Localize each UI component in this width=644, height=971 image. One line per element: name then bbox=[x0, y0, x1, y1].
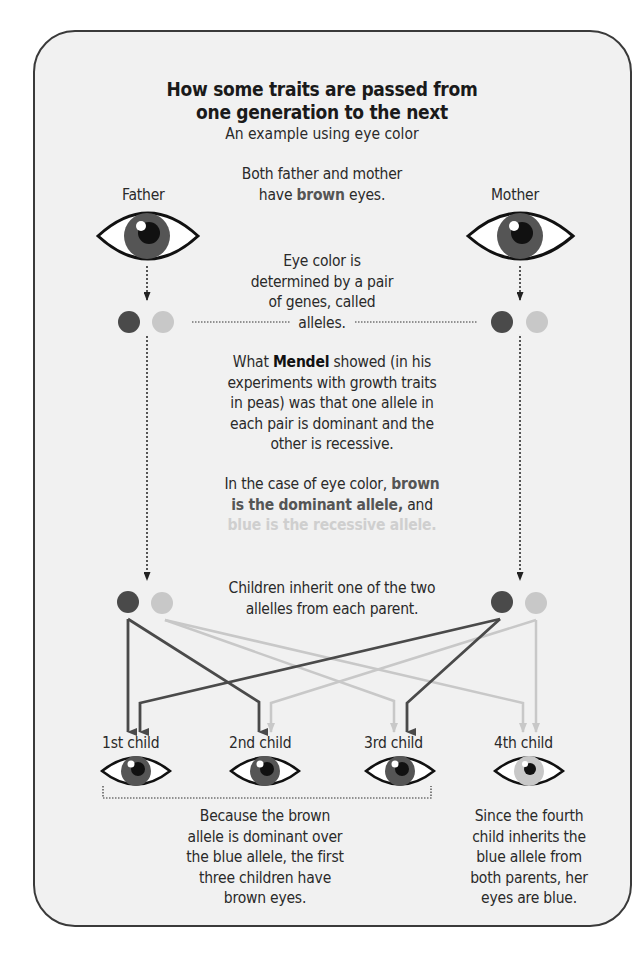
alleles-line-2: determined by a pair bbox=[222, 272, 422, 293]
conclusion-blue-3: blue allele from bbox=[444, 847, 614, 868]
conclusion-brown-1: Because the brown bbox=[155, 806, 375, 827]
intro-brown: brown bbox=[297, 186, 345, 204]
father-blue-allele-icon bbox=[152, 311, 174, 333]
conclusion-blue-1: Since the fourth bbox=[444, 806, 614, 827]
conclusion-blue: Since the fourth child inherits the blue… bbox=[444, 806, 614, 909]
mendel-line-2: experiments with growth traits bbox=[192, 373, 472, 394]
mother-brown-allele-icon bbox=[491, 311, 513, 333]
mendel-pre: What bbox=[233, 353, 273, 371]
child-1-label: 1st child bbox=[102, 734, 159, 752]
conclusion-brown-5: brown eyes. bbox=[155, 888, 375, 909]
father-blue-allele-2-icon bbox=[151, 592, 173, 614]
child-4-label: 4th child bbox=[494, 734, 553, 752]
child-2-label: 2nd child bbox=[229, 734, 291, 752]
dominant-allele-lines bbox=[128, 619, 500, 732]
child-3-label: 3rd child bbox=[364, 734, 423, 752]
conclusion-brown-4: three children have bbox=[155, 868, 375, 889]
conclusion-blue-2: child inherits the bbox=[444, 827, 614, 848]
dominance-line-1: In the case of eye color, brown bbox=[192, 474, 472, 495]
mother-blue-allele-2-icon bbox=[525, 592, 547, 614]
intro-line-2: have brown eyes. bbox=[172, 185, 472, 206]
mother-eye-icon bbox=[468, 213, 573, 259]
title-line-2: one generation to the next bbox=[0, 101, 644, 124]
dominance-dominant: is the dominant allele, bbox=[231, 496, 403, 514]
intro-post: eyes. bbox=[345, 186, 385, 204]
dominance-brown: brown bbox=[391, 475, 439, 493]
child-2-eye-icon bbox=[231, 756, 299, 786]
conclusion-brown: Because the brown allele is dominant ove… bbox=[155, 806, 375, 909]
subtitle: An example using eye color bbox=[0, 125, 644, 143]
mendel-note: What Mendel showed (in his experiments w… bbox=[192, 352, 472, 455]
conclusion-brown-3: the blue allele, the first bbox=[155, 847, 375, 868]
alleles-note: Eye color is determined by a pair of gen… bbox=[222, 251, 422, 333]
inherit-note: Children inherit one of the two allelles… bbox=[192, 578, 472, 619]
mother-brown-allele-2-icon bbox=[491, 591, 513, 613]
father-brown-allele-icon bbox=[118, 311, 140, 333]
conclusion-blue-5: eyes are blue. bbox=[444, 888, 614, 909]
dominance-recessive: blue is the recessive allele. bbox=[192, 515, 472, 536]
conclusion-brown-2: allele is dominant over bbox=[155, 827, 375, 848]
mendel-line-3: in peas) was that one allele in bbox=[192, 393, 472, 414]
father-eye-icon bbox=[98, 213, 198, 259]
mendel-post: showed (in his bbox=[329, 353, 431, 371]
mendel-line-1: What Mendel showed (in his bbox=[192, 352, 472, 373]
father-brown-allele-2-icon bbox=[117, 591, 139, 613]
mendel-line-5: other is recessive. bbox=[192, 434, 472, 455]
conclusion-blue-4: both parents, her bbox=[444, 868, 614, 889]
mother-blue-allele-icon bbox=[526, 311, 548, 333]
inherit-line-2: allelles from each parent. bbox=[192, 599, 472, 620]
title-line-1: How some traits are passed from bbox=[0, 78, 644, 101]
father-label: Father bbox=[122, 186, 165, 204]
mother-label: Mother bbox=[491, 186, 539, 204]
mendel-line-4: each pair is dominant and the bbox=[192, 414, 472, 435]
inherit-line-1: Children inherit one of the two bbox=[192, 578, 472, 599]
mendel-name: Mendel bbox=[273, 353, 329, 371]
intro-pre: have bbox=[259, 186, 297, 204]
child-3-eye-icon bbox=[366, 756, 434, 786]
child-1-eye-icon bbox=[102, 756, 170, 786]
intro-text: Both father and mother have brown eyes. bbox=[172, 164, 472, 205]
alleles-line-4: alleles. bbox=[222, 313, 422, 334]
child-4-eye-icon bbox=[495, 756, 563, 786]
alleles-line-3: of genes, called bbox=[222, 292, 422, 313]
brown-eyes-bracket bbox=[103, 786, 431, 798]
alleles-line-1: Eye color is bbox=[222, 251, 422, 272]
page-title: How some traits are passed from one gene… bbox=[0, 78, 644, 124]
dominance-line-2: is the dominant allele, and bbox=[192, 495, 472, 516]
dominance-note: In the case of eye color, brown is the d… bbox=[192, 474, 472, 536]
intro-line-1: Both father and mother bbox=[172, 164, 472, 185]
dominance-and: and bbox=[403, 496, 433, 514]
dominance-pre: In the case of eye color, bbox=[224, 475, 391, 493]
